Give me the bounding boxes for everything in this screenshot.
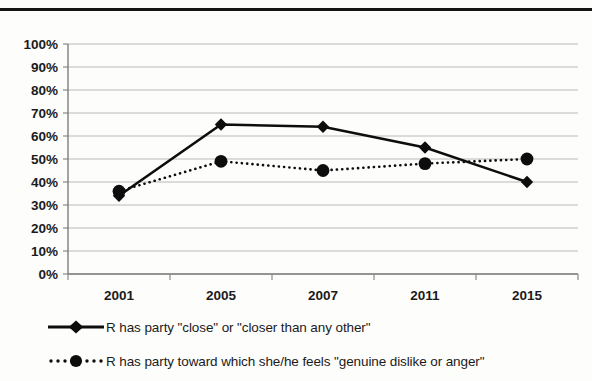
legend-item-series-1: R has party "close" or "closer than any …: [0, 312, 592, 342]
data-point-marker: [521, 153, 534, 166]
data-point-marker: [419, 157, 432, 170]
data-point-marker: [215, 155, 228, 168]
y-axis-tick-label: 100%: [23, 37, 58, 52]
chart-legend: R has party "close" or "closer than any …: [0, 308, 592, 381]
x-axis-tick-label: 2007: [308, 288, 338, 303]
data-point-marker: [317, 164, 330, 177]
y-axis-tick-label: 10%: [31, 244, 58, 259]
y-axis-tick-label: 0%: [38, 267, 58, 282]
y-axis-tick-label: 40%: [31, 175, 58, 190]
y-axis-tick-label: 20%: [31, 221, 58, 236]
line-chart-svg: 0%10%20%30%40%50%60%70%80%90%100%2001200…: [0, 18, 592, 313]
chart-plot-area: 0%10%20%30%40%50%60%70%80%90%100%2001200…: [0, 18, 592, 313]
y-axis-tick-label: 60%: [31, 129, 58, 144]
y-axis-tick-label: 30%: [31, 198, 58, 213]
y-axis-tick-label: 80%: [31, 83, 58, 98]
data-point-marker: [317, 121, 329, 133]
x-axis-tick-label: 2001: [104, 288, 135, 303]
data-point-marker: [419, 141, 431, 153]
x-axis-tick-label: 2011: [410, 288, 440, 303]
series-line-1: [119, 125, 527, 196]
legend-label-series-2: R has party toward which she/he feels "g…: [106, 354, 484, 369]
x-axis-tick-label: 2005: [206, 288, 237, 303]
data-point-marker: [113, 185, 126, 198]
data-point-marker: [521, 176, 533, 188]
legend-key-solid-diamond-icon: [46, 317, 106, 337]
x-axis-tick-label: 2015: [512, 288, 543, 303]
top-divider: [0, 8, 592, 11]
chart-figure: 0%10%20%30%40%50%60%70%80%90%100%2001200…: [0, 0, 592, 381]
y-axis-tick-label: 50%: [31, 152, 58, 167]
y-axis-tick-label: 90%: [31, 60, 58, 75]
legend-key-dotted-circle-icon: [46, 351, 106, 371]
legend-item-series-2: R has party toward which she/he feels "g…: [0, 346, 592, 376]
legend-label-series-1: R has party "close" or "closer than any …: [106, 320, 370, 335]
y-axis-tick-label: 70%: [31, 106, 58, 121]
